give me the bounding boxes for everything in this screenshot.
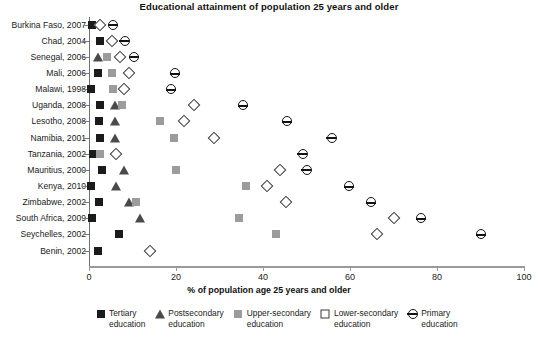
marker-primary [120,36,130,46]
marker-upper-secondary [172,166,180,174]
marker-lower-secondary [114,50,127,63]
marker-upper-secondary [242,182,250,190]
marker-primary [476,229,486,239]
marker-upper-secondary [108,69,116,77]
marker-postsecondary [135,214,145,223]
legend-item[interactable]: Postsecondaryeducation [155,308,223,329]
x-axis-line [89,266,525,268]
marker-tertiary [96,101,104,109]
marker-postsecondary [110,133,120,142]
y-axis-tick [83,121,89,122]
x-axis-tick [176,266,177,271]
y-axis-tick [83,105,89,106]
x-axis-tick-label: 20 [171,272,181,282]
marker-lower-secondary [144,244,157,257]
y-axis-tick [83,57,89,58]
marker-upper-secondary [118,101,126,109]
x-axis-tick [524,266,525,271]
marker-primary [344,181,354,191]
marker-tertiary [88,214,96,222]
x-axis-tick-label: 0 [86,272,91,282]
marker-postsecondary [155,309,165,318]
y-axis-tick [83,73,89,74]
marker-primary [170,68,180,78]
y-axis-tick [83,202,89,203]
marker-postsecondary [119,165,129,174]
x-axis-tick-label: 100 [516,272,531,282]
y-axis-label: Chad, 2004 [0,36,86,46]
marker-primary [408,309,418,319]
marker-tertiary [94,247,102,255]
y-axis-label: Tanzania, 2002 [0,149,86,159]
y-axis-label: South Africa, 2009 [0,213,86,223]
marker-lower-secondary [118,83,131,96]
y-axis-line [89,17,90,266]
marker-postsecondary [93,52,103,61]
marker-tertiary [115,230,123,238]
x-axis-tick [350,266,351,271]
marker-upper-secondary [272,230,280,238]
y-axis-label: Zimbabwe, 2002 [0,197,86,207]
y-axis-label: Mauritius, 2000 [0,165,86,175]
marker-upper-secondary [109,85,117,93]
chart-title: Educational attainment of population 25 … [0,1,538,12]
x-axis-tick [437,266,438,271]
marker-upper-secondary [156,117,164,125]
marker-lower-secondary [123,67,136,80]
marker-primary [238,100,248,110]
legend-item[interactable]: Tertiaryeducation [96,308,145,329]
marker-primary [166,84,176,94]
marker-upper-secondary [96,150,104,158]
x-axis-tick-label: 60 [345,272,355,282]
y-axis-label: Uganda, 2008 [0,100,86,110]
marker-primary [108,20,118,30]
marker-lower-secondary [187,99,200,112]
y-axis-label: Lesotho, 2008 [0,116,86,126]
marker-primary [298,149,308,159]
y-axis-label: Kenya, 2010 [0,181,86,191]
marker-upper-secondary [170,134,178,142]
legend-item[interactable]: Lower-secondaryeducation [321,308,398,329]
x-axis-title: % of population age 25 years and older [0,285,538,295]
x-axis-tick [263,266,264,271]
y-axis-label: Seychelles, 2002 [0,229,86,239]
legend-swatch [321,309,330,319]
marker-primary [302,165,312,175]
marker-primary [282,116,292,126]
marker-lower-secondary [279,196,292,209]
marker-lower-secondary [274,163,287,176]
legend-swatch [234,309,243,319]
chart-root: Educational attainment of population 25 … [0,0,538,344]
legend-item[interactable]: Primaryeducation [408,308,457,329]
y-axis-label: Mali, 2006 [0,68,86,78]
marker-lower-secondary [371,228,384,241]
marker-upper-secondary [103,53,111,61]
x-axis-tick-label: 80 [432,272,442,282]
marker-primary [327,133,337,143]
marker-lower-secondary [178,115,191,128]
legend-label: Primaryeducation [421,308,457,329]
marker-postsecondary [110,117,120,126]
marker-primary [129,52,139,62]
marker-postsecondary [111,182,121,191]
legend-label: Lower-secondaryeducation [334,308,398,329]
legend-item[interactable]: Upper-secondaryeducation [234,308,311,329]
legend-label: Tertiaryeducation [109,308,145,329]
marker-upper-secondary [235,214,243,222]
marker-lower-secondary [110,147,123,160]
y-axis-label: Namibia, 2001 [0,133,86,143]
legend-swatch [408,309,417,319]
y-axis-label: Senegal, 2006 [0,52,86,62]
marker-tertiary [87,85,95,93]
y-axis-label: Burkina Faso, 2007 [0,20,86,30]
marker-lower-secondary [207,131,220,144]
y-axis-label: Benin, 2002 [0,246,86,256]
marker-lower-secondary [388,212,401,225]
marker-lower-secondary [321,309,330,318]
y-axis-tick [83,170,89,171]
legend-swatch [155,309,164,319]
legend-label: Upper-secondaryeducation [247,308,311,329]
legend-swatch [96,309,105,319]
marker-lower-secondary [261,180,274,193]
marker-tertiary [95,198,103,206]
